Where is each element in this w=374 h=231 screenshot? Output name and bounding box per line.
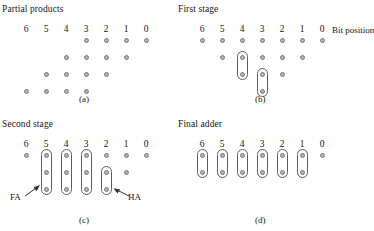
panel-b-dot-r1-c1 — [300, 55, 305, 60]
panel-a-bit-label-6: 6 — [20, 24, 32, 34]
panel-b-bit-label-3: 3 — [256, 24, 268, 34]
panel-b-dot-r0-c2 — [280, 38, 285, 43]
panel-a-bit-label-1: 1 — [120, 24, 132, 34]
panel-d-title: Final adder — [178, 119, 222, 129]
panel-b-dot-r0-c0 — [320, 38, 325, 43]
panel-a-bit-label-2: 2 — [100, 24, 112, 34]
panel-c-dot-r1-c1 — [124, 170, 129, 175]
panel-a-title: Partial products — [2, 4, 64, 14]
panel-c-dot-r1-c2 — [104, 170, 109, 175]
panel-c-dot-r1-c5 — [44, 170, 49, 175]
panel-c-dot-r1-c3 — [84, 170, 89, 175]
panel-c-dot-r0-c2 — [104, 153, 109, 158]
panel-a-dot-r0-c1 — [124, 38, 129, 43]
panel-a-dot-r2-c4 — [64, 72, 69, 77]
panel-d-bit-label-4: 4 — [236, 139, 248, 149]
panel-a-dot-r0-c0 — [144, 38, 149, 43]
panel-c-dot-r2-c4 — [64, 187, 69, 192]
panel-a-dot-r1-c3 — [84, 55, 89, 60]
panel-c-dot-r2-c2 — [104, 187, 109, 192]
panel-d-dot-r0-c1 — [300, 153, 305, 158]
panel-a-bit-label-5: 5 — [40, 24, 52, 34]
panel-a-dot-r3-c5 — [44, 89, 49, 94]
panel-c-dot-r0-c3 — [84, 153, 89, 158]
panel-a-bit-label-4: 4 — [60, 24, 72, 34]
panel-b-bit-label-6: 6 — [196, 24, 208, 34]
panel-d-dot-r0-c6 — [200, 153, 205, 158]
panel-b-bit-label-0: 0 — [316, 24, 328, 34]
panel-a-dot-r3-c3 — [84, 89, 89, 94]
panel-d-dot-r1-c2 — [280, 170, 285, 175]
panel-b-dot-r2-c4 — [240, 72, 245, 77]
panel-a-bit-label-3: 3 — [80, 24, 92, 34]
panel-d-bit-label-6: 6 — [196, 139, 208, 149]
panel-d-dot-r1-c1 — [300, 170, 305, 175]
panel-c-dot-r0-c6 — [24, 153, 29, 158]
panel-b-dot-r1-c3 — [260, 55, 265, 60]
panel-c-annotation-ha: HA — [128, 192, 141, 202]
panel-d-caption: (d) — [255, 215, 266, 225]
panel-c-bit-label-4: 4 — [60, 139, 72, 149]
panel-b-bit-label-4: 4 — [236, 24, 248, 34]
panel-b-dot-r0-c4 — [240, 38, 245, 43]
panel-d-dot-r0-c4 — [240, 153, 245, 158]
panel-d-bit-label-1: 1 — [296, 139, 308, 149]
panel-c-bit-label-1: 1 — [120, 139, 132, 149]
panel-b-dot-r2-c3 — [260, 72, 265, 77]
panel-c-dot-r0-c1 — [124, 153, 129, 158]
panel-b-dot-r1-c2 — [280, 55, 285, 60]
panel-a-bit-label-0: 0 — [140, 24, 152, 34]
panel-a-dot-r2-c2 — [104, 72, 109, 77]
panel-b-dot-r0-c3 — [260, 38, 265, 43]
panel-b-dot-r0-c6 — [200, 38, 205, 43]
panel-c-dot-r0-c4 — [64, 153, 69, 158]
panel-b-dot-r1-c4 — [240, 55, 245, 60]
panel-c-annotation-fa: FA — [10, 192, 21, 202]
panel-b-caption: (b) — [255, 94, 266, 104]
panel-c-dot-r0-c0 — [144, 153, 149, 158]
panel-b-bit-label-5: 5 — [216, 24, 228, 34]
panel-c-caption: (c) — [79, 215, 89, 225]
panel-b-dot-r0-c5 — [220, 38, 225, 43]
panel-b-dot-r0-c1 — [300, 38, 305, 43]
panel-c-bit-label-3: 3 — [80, 139, 92, 149]
panel-d-dot-r0-c5 — [220, 153, 225, 158]
panel-a-dot-r1-c1 — [124, 55, 129, 60]
panel-d-dot-r1-c6 — [200, 170, 205, 175]
panel-d-bit-label-5: 5 — [216, 139, 228, 149]
panel-d-dot-r0-c3 — [260, 153, 265, 158]
panel-a-dot-r2-c3 — [84, 72, 89, 77]
panel-a-caption: (a) — [79, 94, 89, 104]
panel-d-dot-r1-c4 — [240, 170, 245, 175]
panel-c-bit-label-0: 0 — [140, 139, 152, 149]
panel-c-bit-label-6: 6 — [20, 139, 32, 149]
panel-c-leader-fa — [24, 183, 48, 199]
bit-position-label: Bit position — [332, 25, 374, 35]
panel-b-title: First stage — [178, 4, 218, 14]
panel-a-dot-r2-c5 — [44, 72, 49, 77]
panel-c-bit-label-5: 5 — [40, 139, 52, 149]
panel-c-dot-r2-c3 — [84, 187, 89, 192]
panel-c-dot-r1-c4 — [64, 170, 69, 175]
panel-c-bit-label-2: 2 — [100, 139, 112, 149]
panel-c-dot-r0-c5 — [44, 153, 49, 158]
panel-d-bit-label-2: 2 — [276, 139, 288, 149]
panel-d-dot-r1-c3 — [260, 170, 265, 175]
panel-d-bit-label-3: 3 — [256, 139, 268, 149]
panel-a-dot-r1-c2 — [104, 55, 109, 60]
panel-d-dot-r1-c5 — [220, 170, 225, 175]
panel-d-dot-r0-c0 — [320, 153, 325, 158]
panel-c-title: Second stage — [2, 119, 53, 129]
panel-d-bit-label-0: 0 — [316, 139, 328, 149]
panel-a-dot-r3-c4 — [64, 89, 69, 94]
panel-a-dot-r3-c6 — [24, 89, 29, 94]
panel-a-dot-r1-c4 — [64, 55, 69, 60]
panel-b-dot-r1-c5 — [220, 55, 225, 60]
panel-a-dot-r0-c2 — [104, 38, 109, 43]
panel-b-bit-label-2: 2 — [276, 24, 288, 34]
panel-b-dot-r2-c2 — [280, 72, 285, 77]
panel-b-dot-r3-c3 — [260, 89, 265, 94]
panel-b-bit-label-1: 1 — [296, 24, 308, 34]
panel-d-dot-r0-c2 — [280, 153, 285, 158]
panel-a-dot-r0-c3 — [84, 38, 89, 43]
